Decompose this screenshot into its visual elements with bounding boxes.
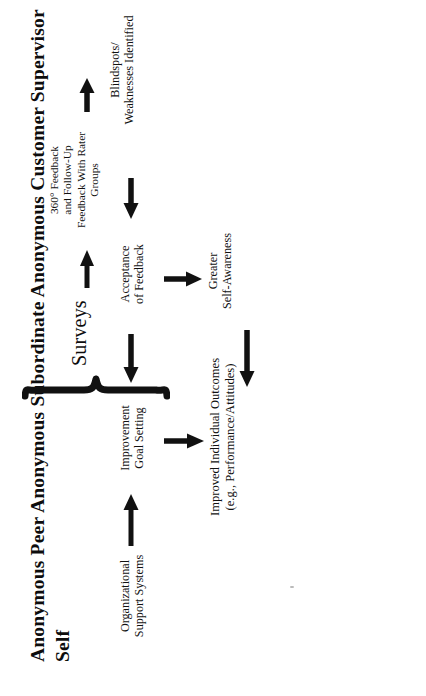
node-surveys: Surveys	[68, 300, 91, 366]
node-org-support: Organizational Support Systems	[118, 540, 147, 652]
node-acceptance: Acceptance of Feedback	[118, 222, 147, 326]
arrow-acceptance-to-self-awareness	[164, 270, 204, 288]
node-self-awareness: Greater Self-Awareness	[206, 218, 235, 324]
arrow-org-support-to-goal-setting	[122, 492, 140, 546]
arrow-surveys-to-feedback	[78, 248, 96, 288]
arrow-self-awareness-to-outcomes	[238, 330, 256, 390]
node-blindspots: Blindspots/ Weaknesses Identified	[108, 0, 137, 140]
arrow-goal-setting-to-outcomes	[164, 432, 206, 450]
figure-canvas: Anonymous Peer Anonymous Subordinate Ano…	[0, 0, 426, 696]
node-feedback: 360° Feedback and Follow-Up Feedback Wit…	[48, 116, 102, 244]
arrow-feedback-to-blindspots	[78, 76, 96, 112]
node-goal-setting: Improvement Goal Setting	[118, 386, 147, 490]
grouping-brace	[22, 374, 170, 400]
arrow-blindspots-to-acceptance	[122, 178, 140, 222]
arrow-acceptance-to-goal-setting	[122, 334, 140, 386]
scan-speck	[290, 586, 294, 588]
node-outcomes: Improved Individual Outcomes (e.g., Perf…	[208, 330, 238, 544]
